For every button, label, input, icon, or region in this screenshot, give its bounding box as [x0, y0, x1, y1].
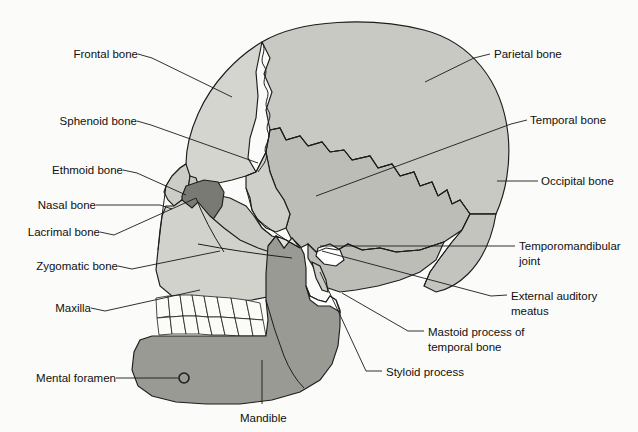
- skull-diagram-figure: Frontal bone Sphenoid bone Ethmoid bone …: [0, 0, 638, 432]
- label-styloid-process: Styloid process: [386, 366, 464, 378]
- label-parietal-bone: Parietal bone: [494, 48, 562, 60]
- skull-lateral-illustration: Frontal bone Sphenoid bone Ethmoid bone …: [0, 0, 638, 432]
- label-maxilla: Maxilla: [55, 302, 91, 314]
- lower-tooth-row: [157, 316, 266, 336]
- label-zygomatic-bone: Zygomatic bone: [36, 260, 118, 272]
- label-sphenoid-bone: Sphenoid bone: [60, 115, 137, 127]
- label-mandible: Mandible: [240, 412, 287, 424]
- label-temporomandibular-joint: Temporomandibular: [519, 240, 621, 252]
- label-ethmoid-bone: Ethmoid bone: [52, 164, 123, 176]
- label-lacrimal-bone: Lacrimal bone: [28, 226, 100, 238]
- mental-foramen-shape: [179, 373, 189, 383]
- label-temporal-bone: Temporal bone: [530, 114, 606, 126]
- label-external-auditory-meatus-line2: meatus: [511, 305, 549, 317]
- label-mental-foramen: Mental foramen: [36, 372, 116, 384]
- label-frontal-bone: Frontal bone: [73, 48, 138, 60]
- label-temporomandibular-joint-line2: joint: [518, 255, 541, 267]
- label-occipital-bone: Occipital bone: [541, 175, 614, 187]
- label-mastoid-process-line2: temporal bone: [428, 341, 502, 353]
- label-external-auditory-meatus: External auditory: [511, 290, 598, 302]
- label-nasal-bone: Nasal bone: [38, 199, 96, 211]
- label-mastoid-process: Mastoid process of: [428, 326, 525, 338]
